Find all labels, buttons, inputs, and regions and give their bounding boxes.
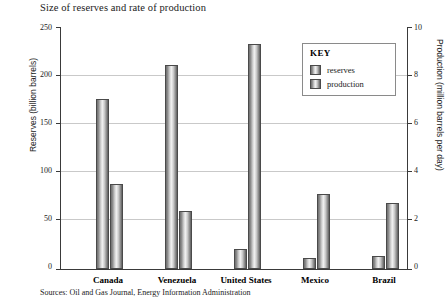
legend: KEY reserves production	[302, 43, 396, 96]
y-tick-left-250: 250	[26, 24, 52, 32]
bar-reserves-venezuela	[165, 65, 178, 269]
x-label-venezuela: Venezuela	[158, 275, 197, 285]
tick-mark-right-0	[408, 269, 412, 270]
legend-title: KEY	[310, 48, 389, 58]
y-axis-label-right: Production (million barrels per day)	[435, 0, 445, 215]
gridline-150	[61, 123, 407, 124]
y-tick-left-200: 200	[26, 71, 52, 79]
y-tick-right-6: 6	[414, 119, 434, 127]
bar-production-brazil	[386, 203, 399, 269]
tick-mark-right-2	[408, 219, 412, 220]
y-tick-left-0: 0	[26, 263, 52, 271]
x-label-united-states: United States	[220, 275, 271, 285]
bar-production-united-states	[248, 44, 261, 269]
y-tick-left-100: 100	[26, 167, 52, 175]
legend-swatch-reserves	[310, 65, 321, 75]
source-note: Sources: Oil and Gas Journal, Energy Inf…	[40, 288, 250, 297]
y-tick-right-10: 10	[414, 24, 434, 32]
y-tick-left-150: 150	[26, 119, 52, 127]
x-label-mexico: Mexico	[301, 275, 329, 285]
x-label-brazil: Brazil	[372, 275, 396, 285]
bar-production-canada	[110, 184, 123, 269]
y-tick-right-8: 8	[414, 71, 434, 79]
legend-label-reserves: reserves	[327, 65, 355, 75]
legend-item-reserves: reserves	[310, 63, 389, 77]
legend-item-production: production	[310, 77, 389, 91]
gridline-100	[61, 171, 407, 172]
bar-reserves-united-states	[234, 249, 247, 269]
legend-swatch-production	[310, 79, 321, 89]
tick-mark-right-6	[408, 123, 412, 124]
bar-reserves-brazil	[372, 256, 385, 269]
legend-label-production: production	[327, 79, 364, 89]
bar-reserves-mexico	[303, 258, 316, 269]
chart-title: Size of reserves and rate of production	[40, 2, 206, 13]
bar-production-mexico	[317, 194, 330, 269]
x-label-canada: Canada	[93, 275, 123, 285]
bar-production-venezuela	[179, 211, 192, 269]
y-tick-left-50: 50	[26, 215, 52, 223]
y-tick-right-0: 0	[414, 263, 434, 271]
bar-reserves-canada	[96, 99, 109, 269]
tick-mark-right-8	[408, 75, 412, 76]
y-tick-right-4: 4	[414, 167, 434, 175]
tick-mark-right-4	[408, 171, 412, 172]
tick-mark-right-10	[408, 27, 412, 28]
y-tick-right-2: 2	[414, 215, 434, 223]
